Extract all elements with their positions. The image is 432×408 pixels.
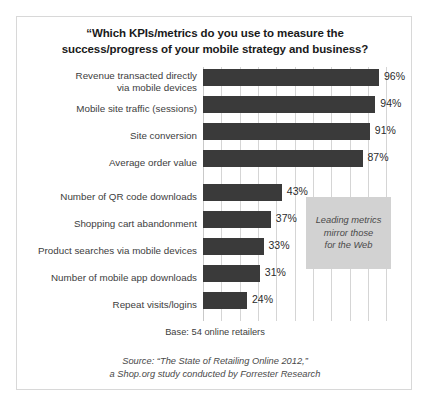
bar-2 bbox=[203, 123, 370, 140]
bar-3 bbox=[203, 150, 363, 167]
bar-1 bbox=[203, 96, 375, 113]
bar-row: 96% bbox=[203, 69, 401, 86]
category-label-2: Site conversion bbox=[19, 130, 197, 142]
bar-value-label-4: 43% bbox=[287, 185, 308, 197]
bar-7 bbox=[203, 265, 260, 282]
bar-row: 87% bbox=[203, 150, 401, 167]
source-note-line-2: a Shop.org study conducted by Forrester … bbox=[17, 368, 413, 381]
category-label-7: Number of mobile app downloads bbox=[19, 272, 197, 284]
bar-row: 24% bbox=[203, 292, 401, 309]
bar-value-label-5: 37% bbox=[276, 212, 297, 224]
bar-4 bbox=[203, 184, 282, 201]
bar-value-label-8: 24% bbox=[252, 293, 273, 305]
category-label-3: Average order value bbox=[19, 157, 197, 169]
category-label-1: Mobile site traffic (sessions) bbox=[19, 103, 197, 115]
chart-title-line-2: success/progress of your mobile strategy… bbox=[29, 41, 401, 57]
bar-value-label-7: 31% bbox=[265, 266, 286, 278]
plot-area: 96%94%91%87%43%37%33%31%24% bbox=[203, 67, 401, 321]
bar-8 bbox=[203, 292, 247, 309]
annotation-line-2: mirror those bbox=[316, 227, 382, 240]
bar-value-label-3: 87% bbox=[368, 151, 389, 163]
category-label-0-line-1: Revenue transacted directly bbox=[76, 70, 197, 81]
category-label-5: Shopping cart abandonment bbox=[19, 218, 197, 230]
annotation-callout-text: Leading metrics mirror those for the Web bbox=[316, 214, 382, 252]
category-label-0-line-2: via mobile devices bbox=[117, 82, 197, 93]
base-note: Base: 54 online retailers bbox=[17, 327, 413, 337]
chart-title-line-1: “Which KPIs/metrics do you use to measur… bbox=[29, 25, 401, 41]
source-note-line-1: Source: “The State of Retailing Online 2… bbox=[17, 355, 413, 368]
bar-6 bbox=[203, 238, 264, 255]
bar-value-label-0: 96% bbox=[384, 70, 405, 82]
category-axis-labels: Revenue transacted directly via mobile d… bbox=[17, 67, 197, 321]
annotation-line-3: for the Web bbox=[316, 239, 382, 252]
bar-0 bbox=[203, 69, 379, 86]
bar-value-label-1: 94% bbox=[380, 97, 401, 109]
bar-row: 91% bbox=[203, 123, 401, 140]
chart-frame: “Which KPIs/metrics do you use to measur… bbox=[16, 16, 412, 390]
category-label-0: Revenue transacted directly via mobile d… bbox=[19, 70, 197, 93]
bar-5 bbox=[203, 211, 271, 228]
annotation-callout: Leading metrics mirror those for the Web bbox=[306, 197, 391, 269]
bar-row: 94% bbox=[203, 96, 401, 113]
category-label-8: Repeat visits/logins bbox=[19, 299, 197, 311]
annotation-line-1: Leading metrics bbox=[316, 214, 382, 227]
bar-value-label-6: 33% bbox=[269, 239, 290, 251]
source-note: Source: “The State of Retailing Online 2… bbox=[17, 355, 413, 381]
bar-value-label-2: 91% bbox=[375, 124, 396, 136]
category-label-6: Product searches via mobile devices bbox=[19, 245, 197, 257]
category-label-4: Number of QR code downloads bbox=[19, 191, 197, 203]
chart-title: “Which KPIs/metrics do you use to measur… bbox=[29, 25, 401, 57]
